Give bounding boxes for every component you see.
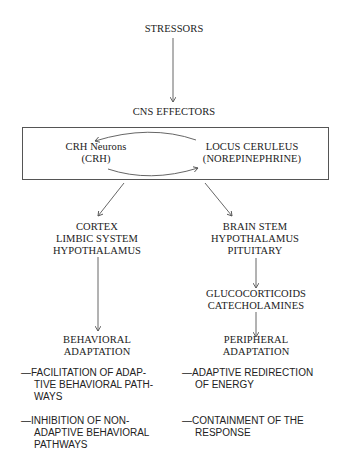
glucocorticoids-node: GLUCOCORTICOIDS CATECHOLAMINES	[191, 288, 321, 312]
peripheral-bullet-1-line2: OF ENERGY	[182, 379, 313, 391]
behavioral-bullet-2: —INHIBITION OF NON- ADAPTIVE BEHAVIORAL …	[21, 415, 149, 451]
crh-neurons-line1: CRH Neurons	[46, 141, 146, 153]
cortex-node: CORTEX LIMBIC SYSTEM HYPOTHALAMUS	[37, 221, 157, 257]
behavioral-bullet-1-line2: TIVE BEHAVIORAL PATH-	[21, 379, 153, 391]
arrow-box-to-cortex	[98, 183, 124, 216]
peripheral-bullet-2: —CONTAINMENT OF THE RESPONSE	[182, 415, 304, 439]
behavioral-adaptation-line1: BEHAVIORAL	[47, 334, 147, 346]
locus-ceruleus-node: LOCUS CERULEUS (NOREPINEPHRINE)	[192, 141, 312, 165]
peripheral-adaptation-line2: ADAPTATION	[206, 346, 306, 358]
peripheral-adaptation-node: PERIPHERAL ADAPTATION	[206, 334, 306, 358]
glucocorticoids-line1: GLUCOCORTICOIDS	[191, 288, 321, 300]
cns-effectors-label: CNS EFFECTORS	[114, 106, 234, 118]
locus-ceruleus-line1: LOCUS CERULEUS	[192, 141, 312, 153]
stressors-text: STRESSORS	[124, 23, 224, 35]
glucocorticoids-line2: CATECHOLAMINES	[191, 300, 321, 312]
behavioral-bullet-2-line3: PATHWAYS	[21, 439, 149, 451]
peripheral-bullet-1: —ADAPTIVE REDIRECTION OF ENERGY	[182, 367, 313, 391]
crh-neurons-node: CRH Neurons (CRH)	[46, 141, 146, 165]
behavioral-adaptation-line2: ADAPTATION	[47, 346, 147, 358]
peripheral-bullet-2-line2: RESPONSE	[182, 427, 304, 439]
locus-ceruleus-line2: (NOREPINEPHRINE)	[192, 153, 312, 165]
brain-stem-line1: BRAIN STEM	[195, 221, 315, 233]
behavioral-bullet-1-line1: —FACILITATION OF ADAP-	[21, 367, 153, 379]
cortex-line1: CORTEX	[37, 221, 157, 233]
arrow-box-to-brainstem	[205, 183, 232, 216]
behavioral-adaptation-node: BEHAVIORAL ADAPTATION	[47, 334, 147, 358]
behavioral-bullet-1: —FACILITATION OF ADAP- TIVE BEHAVIORAL P…	[21, 367, 153, 403]
behavioral-bullet-2-line2: ADAPTIVE BEHAVIORAL	[21, 427, 149, 439]
behavioral-bullet-2-line1: —INHIBITION OF NON-	[21, 415, 149, 427]
brain-stem-node: BRAIN STEM HYPOTHALAMUS PITUITARY	[195, 221, 315, 257]
crh-neurons-line2: (CRH)	[46, 153, 146, 165]
peripheral-bullet-2-line1: —CONTAINMENT OF THE	[182, 415, 304, 427]
brain-stem-line2: HYPOTHALAMUS	[195, 233, 315, 245]
brain-stem-line3: PITUITARY	[195, 245, 315, 257]
stressors-label: STRESSORS	[124, 23, 224, 35]
cns-effectors-text: CNS EFFECTORS	[114, 106, 234, 118]
peripheral-adaptation-line1: PERIPHERAL	[206, 334, 306, 346]
cortex-line2: LIMBIC SYSTEM	[37, 233, 157, 245]
cortex-line3: HYPOTHALAMUS	[37, 245, 157, 257]
behavioral-bullet-1-line3: WAYS	[21, 391, 153, 403]
peripheral-bullet-1-line1: —ADAPTIVE REDIRECTION	[182, 367, 313, 379]
